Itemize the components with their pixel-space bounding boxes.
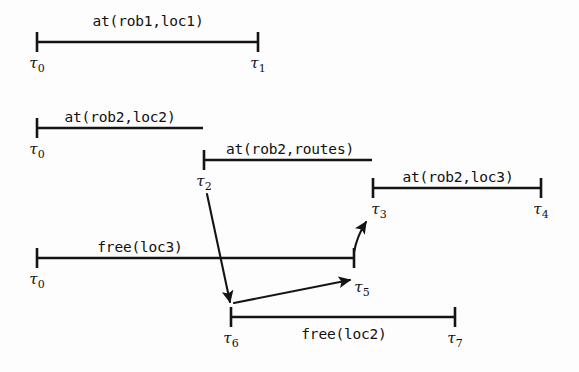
time-label-t4: τ4 [533, 200, 548, 221]
interval-label-at-rob1-loc1: at(rob1,loc1) [93, 13, 204, 29]
time-label-t0b: τ0 [29, 140, 44, 161]
time-label-t6: τ6 [223, 329, 238, 350]
interval-label-at-rob2-loc2: at(rob2,loc2) [65, 109, 176, 125]
time-label-t0c: τ0 [29, 270, 44, 291]
interval-label-free-loc3: free(loc3) [97, 239, 182, 255]
time-label-t1: τ1 [250, 54, 265, 75]
interval-label-at-rob2-routes: at(rob2,routes) [226, 141, 354, 157]
labels-layer: at(rob1,loc1)at(rob2,loc2)at(rob2,routes… [29, 13, 548, 350]
time-label-t5: τ5 [354, 278, 369, 299]
arrows-layer [207, 194, 366, 303]
arrow-t2-to-t6 [207, 194, 230, 302]
time-label-t2: τ2 [196, 172, 211, 193]
time-label-t3: τ3 [371, 200, 386, 221]
interval-label-at-rob2-loc3: at(rob2,loc3) [403, 169, 514, 185]
timeline-diagram: at(rob1,loc1)at(rob2,loc2)at(rob2,routes… [0, 0, 579, 372]
timeline-canvas: at(rob1,loc1)at(rob2,loc2)at(rob2,routes… [0, 0, 579, 372]
interval-label-free-loc2: free(loc2) [301, 326, 386, 342]
time-label-t7: τ7 [447, 329, 462, 350]
time-label-t0a: τ0 [29, 54, 44, 75]
arrow-t5-to-t3 [354, 222, 366, 252]
arrow-t6-to-t5 [234, 280, 350, 303]
